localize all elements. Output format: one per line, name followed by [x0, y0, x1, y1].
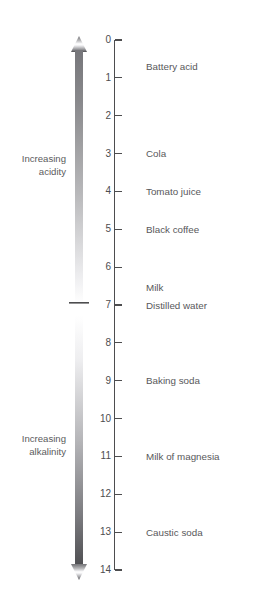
axis-tick-label: 11 [71, 451, 111, 461]
axis-tick-label: 6 [71, 262, 111, 272]
axis-tick-label: 8 [71, 338, 111, 348]
substance-label: Cola [146, 148, 166, 159]
axis-tick [115, 153, 122, 154]
axis-tick [115, 191, 122, 192]
axis-tick [115, 39, 122, 40]
axis-tick-label: 1 [71, 73, 111, 83]
increasing-alkalinity-label: Increasing alkalinity [4, 432, 66, 458]
substance-label: Black coffee [146, 224, 199, 235]
axis-tick [115, 418, 122, 419]
increasing-acidity-label: Increasing acidity [4, 152, 66, 178]
axis-tick-label: 7 [71, 300, 111, 310]
axis-tick-label: 9 [71, 376, 111, 386]
axis-tick [115, 304, 122, 305]
axis-tick [115, 267, 122, 268]
axis-tick [115, 569, 122, 570]
axis-tick-label: 12 [71, 489, 111, 499]
axis-tick [115, 380, 122, 381]
substance-label: Milk [146, 282, 163, 293]
axis-tick [115, 456, 122, 457]
axis-tick [115, 77, 122, 78]
axis-tick-label: 13 [71, 527, 111, 537]
axis-tick [115, 229, 122, 230]
ph-scale-figure: Increasing acidity Increasing alkalinity… [0, 0, 253, 596]
substance-label: Tomato juice [146, 186, 201, 197]
substance-label: Battery acid [146, 61, 198, 72]
axis-tick-label: 14 [71, 565, 111, 575]
substance-label: Baking soda [146, 375, 200, 386]
axis-tick-label: 10 [71, 414, 111, 424]
substance-label: Milk of magnesia [146, 451, 220, 462]
substance-label: Caustic soda [146, 527, 203, 538]
axis-tick-label: 2 [71, 111, 111, 121]
axis-tick-label: 0 [71, 35, 111, 45]
axis-tick [115, 115, 122, 116]
axis-tick [115, 494, 122, 495]
axis-tick-label: 4 [71, 186, 111, 196]
substance-label: Distilled water [146, 300, 207, 311]
axis-tick-label: 5 [71, 224, 111, 234]
axis-tick [115, 532, 122, 533]
axis-tick [115, 342, 122, 343]
axis-tick-label: 3 [71, 149, 111, 159]
